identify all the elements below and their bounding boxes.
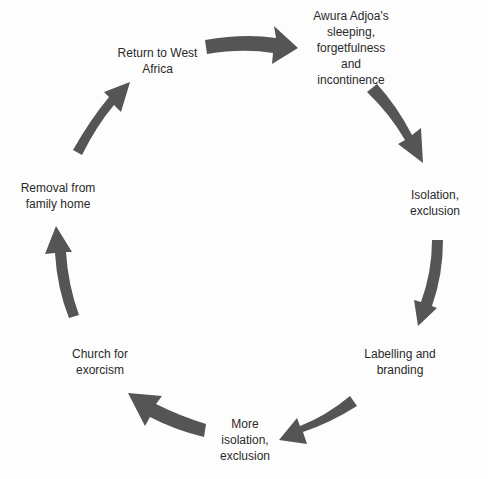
arrow-more-isolation-to-church <box>128 393 206 437</box>
cycle-diagram: Awura Adjoa's sleeping, forgetfulness an… <box>0 0 488 479</box>
arrow-return-to-awura <box>205 26 298 64</box>
arrow-awura-to-isolation <box>367 84 423 163</box>
arrow-removal-to-return <box>73 82 130 155</box>
arrows-layer <box>0 0 488 479</box>
node-awura-adjoa-symptoms: Awura Adjoa's sleeping, forgetfulness an… <box>296 8 406 88</box>
node-removal-family-home: Removal from family home <box>8 180 108 212</box>
node-church-exorcism: Church for exorcism <box>50 346 150 378</box>
arrow-isolation-to-labelling <box>414 240 443 326</box>
node-labelling-branding: Labelling and branding <box>345 346 455 378</box>
arrow-labelling-to-more-isolation <box>279 396 357 444</box>
arrow-church-to-removal <box>45 226 79 318</box>
node-return-west-africa: Return to West Africa <box>105 45 210 77</box>
node-isolation-exclusion: Isolation, exclusion <box>390 187 480 219</box>
node-more-isolation-exclusion: More isolation, exclusion <box>205 416 285 464</box>
